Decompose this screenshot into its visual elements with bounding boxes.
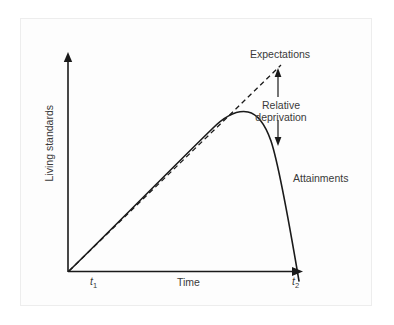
- x-tick-label-t1-sub: 1: [93, 281, 97, 290]
- figure-container: Expectations Relative deprivation Attain…: [0, 0, 394, 325]
- x-tick-label-t1: t1: [90, 275, 97, 291]
- expectations-label: Expectations: [250, 48, 310, 60]
- x-axis-label: Time: [177, 276, 200, 288]
- x-tick-label-t2-sub: 2: [295, 281, 299, 290]
- relative-deprivation-up-arrow-group: [275, 68, 282, 97]
- y-axis-label: Living standards: [43, 88, 55, 198]
- relative-deprivation-label: Relative deprivation: [250, 99, 312, 124]
- attainments-curve: [69, 112, 299, 281]
- y-axis-arrowhead: [64, 52, 72, 62]
- x-tick-label-t2: t2: [292, 275, 299, 291]
- attainments-label: Attainments: [293, 172, 348, 184]
- relative-deprivation-down-arrow-group: [275, 120, 282, 146]
